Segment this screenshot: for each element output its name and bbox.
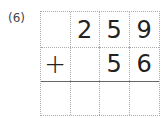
- addend-row-2: + 5 6: [41, 47, 159, 81]
- cell-r1-c4: 9: [130, 12, 159, 47]
- cell-r1-c3: 5: [100, 12, 130, 47]
- cell-r2-c2: [71, 47, 101, 81]
- answer-cell-2[interactable]: [71, 82, 101, 115]
- plus-sign: +: [41, 47, 71, 81]
- answer-row: [41, 82, 159, 115]
- cell-r2-c3: 5: [100, 47, 130, 81]
- cell-r1-c1: [41, 12, 71, 47]
- problem-number: (6): [8, 11, 25, 25]
- answer-cell-1[interactable]: [41, 82, 71, 115]
- cell-r2-c4: 6: [130, 47, 159, 81]
- addition-grid: 2 5 9 + 5 6: [40, 11, 160, 116]
- cell-r1-c2: 2: [71, 12, 101, 47]
- answer-cell-4[interactable]: [130, 82, 159, 115]
- answer-cell-3[interactable]: [100, 82, 130, 115]
- addend-row-1: 2 5 9: [41, 12, 159, 48]
